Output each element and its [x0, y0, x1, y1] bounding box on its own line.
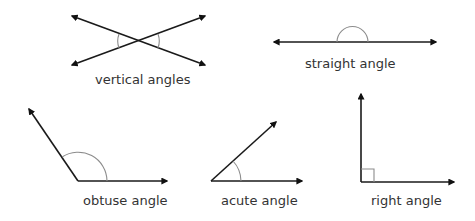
- acute-angle-figure: [211, 122, 302, 181]
- acute-slanted-ray: [211, 122, 276, 181]
- obtuse-slanted-ray: [29, 109, 78, 181]
- acute-arc: [233, 161, 241, 181]
- right-angle-square-marker: [361, 169, 374, 182]
- semicircle-arc: [337, 26, 368, 42]
- diagram-svg: [0, 0, 475, 221]
- straight-angle-figure: [274, 26, 436, 42]
- right-angle-arc: [158, 34, 159, 48]
- right-angle-figure: [361, 94, 454, 182]
- angle-types-diagram: vertical angles straight angle obtuse an…: [0, 0, 475, 221]
- obtuse-angle-figure: [29, 109, 167, 181]
- left-angle-arc: [118, 34, 119, 48]
- obtuse-angle-label: obtuse angle: [83, 194, 168, 207]
- vertical-angles-figure: [72, 16, 205, 65]
- right-angle-label: right angle: [371, 194, 442, 207]
- acute-angle-label: acute angle: [221, 194, 298, 207]
- vertical-angles-label: vertical angles: [95, 73, 190, 86]
- straight-angle-label: straight angle: [305, 57, 396, 70]
